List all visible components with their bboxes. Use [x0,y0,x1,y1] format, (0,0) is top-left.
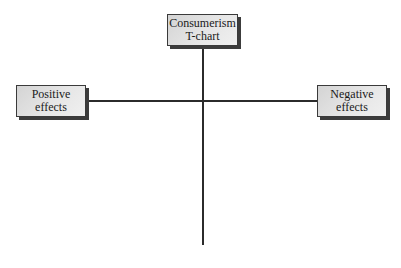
negative-effects-box: Negative effects [317,85,387,117]
title-line-2: T-chart [185,30,219,43]
positive-effects-line-2: effects [35,101,67,114]
horizontal-divider-line [88,100,318,102]
vertical-divider-line [202,46,204,245]
t-chart-diagram: Consumerism T-chart Positive effects Neg… [0,0,401,268]
positive-effects-box: Positive effects [16,85,86,117]
negative-effects-line-2: effects [336,101,368,114]
title-box: Consumerism T-chart [167,14,238,46]
